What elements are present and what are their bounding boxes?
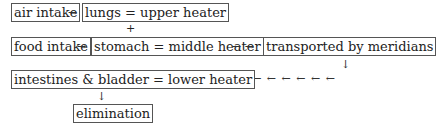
meridians-box: transported by meridians — [263, 37, 436, 56]
arrow-food-to-stomach: → — [77, 38, 86, 55]
lungs-box: lungs = upper heater — [82, 3, 229, 22]
elimination-box: elimination — [73, 104, 153, 123]
arrow-air-to-lungs: → — [68, 4, 77, 21]
arrow-down-meridians: ↓ — [341, 56, 350, 73]
plus-sign: + — [126, 20, 135, 37]
arrow-down-lower: ↓ — [97, 88, 106, 105]
arrow-stomach-to-meridians: → → — [232, 38, 254, 55]
lower-heater-box: intestines & bladder = lower heater — [11, 70, 255, 89]
